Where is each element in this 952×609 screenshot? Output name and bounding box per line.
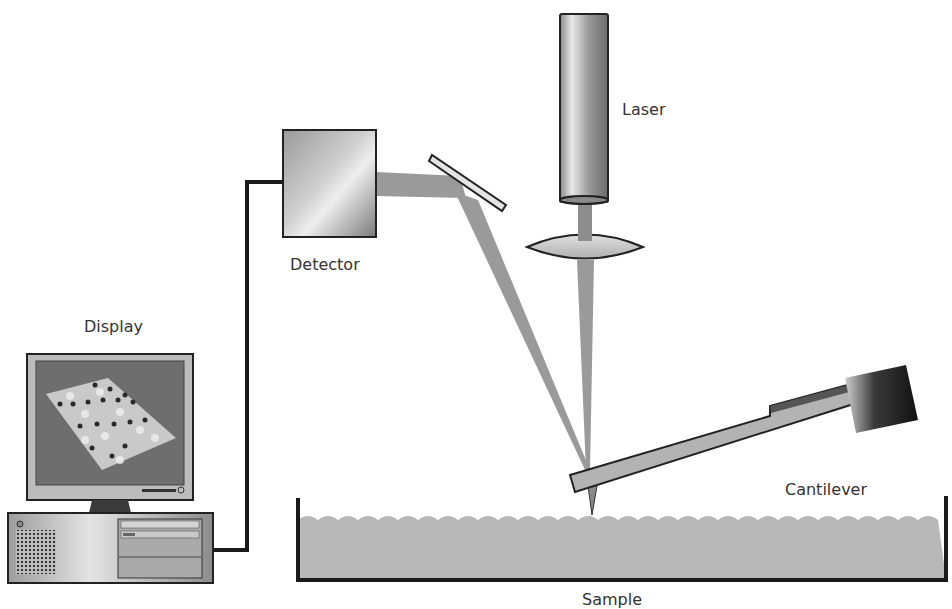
sample-stage bbox=[298, 496, 946, 580]
computer bbox=[8, 354, 213, 583]
detector-label: Detector bbox=[290, 255, 360, 274]
cantilever-label: Cantilever bbox=[785, 480, 867, 499]
laser-label: Laser bbox=[622, 100, 665, 119]
laser-beam bbox=[376, 172, 594, 472]
signal-cable bbox=[213, 182, 283, 550]
photodetector bbox=[283, 130, 376, 237]
focusing-lens bbox=[527, 233, 643, 259]
display-label: Display bbox=[84, 317, 143, 336]
laser-source bbox=[560, 14, 608, 204]
sample-label: Sample bbox=[582, 590, 642, 609]
